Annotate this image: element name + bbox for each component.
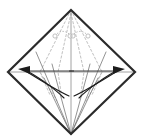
origami-figure: Square paper rotated 45 degrees showing … [0,0,143,140]
origami-diagram-canvas [0,0,143,140]
pinch-arrow-left-start-dot [53,34,57,38]
pinch-arrow-right-start-dot [86,34,90,38]
